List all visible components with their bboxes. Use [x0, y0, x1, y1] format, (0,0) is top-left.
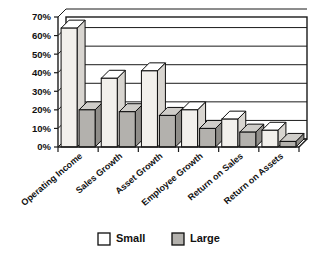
legend-swatch-small — [98, 233, 110, 245]
y-tick-label-0: 0% — [37, 141, 51, 152]
y-tick-label-30: 30% — [32, 86, 52, 97]
chart-canvas: 0%10%20%30%40%50%60%70% Operating Income… — [0, 0, 318, 266]
legend-item-small[interactable]: Small — [98, 232, 145, 245]
bar-1-1: Sales Growth — Large: 19% — [119, 104, 143, 147]
bar-0-1: Operating Income — Large: 20% — [79, 102, 103, 147]
bar-3-0-front — [182, 110, 198, 147]
y-tick-label-50: 50% — [32, 49, 52, 60]
bar-0-0-front — [61, 28, 77, 147]
bar-4-1-front — [240, 132, 256, 147]
bar-1-0-front — [101, 78, 117, 147]
bar-5-1-front — [280, 141, 296, 147]
y-tick-label-40: 40% — [32, 67, 52, 78]
legend-label-large: Large — [190, 232, 220, 244]
legend-swatch-large — [172, 233, 184, 245]
bar-4-0-front — [222, 119, 238, 147]
y-tick-label-20: 20% — [32, 104, 52, 115]
legend-item-large[interactable]: Large — [172, 232, 220, 245]
bar-2-0-front — [141, 71, 157, 147]
bar-3-1-front — [200, 128, 216, 147]
y-tick-label-10: 10% — [32, 123, 52, 134]
legend-label-small: Small — [116, 232, 145, 244]
y-tick-label-70: 70% — [32, 11, 52, 22]
bar-2-1: Asset Growth — Large: 17% — [159, 107, 183, 147]
bar-3-1: Employee Growth — Large: 10% — [200, 120, 224, 147]
bar-2-1-front — [159, 115, 175, 147]
y-tick-label-60: 60% — [32, 30, 52, 41]
bar-chart: 0%10%20%30%40%50%60%70% Operating Income… — [0, 0, 318, 266]
bar-1-1-front — [119, 112, 135, 147]
bar-0-1-front — [79, 110, 95, 147]
bar-5-0-front — [262, 130, 278, 147]
